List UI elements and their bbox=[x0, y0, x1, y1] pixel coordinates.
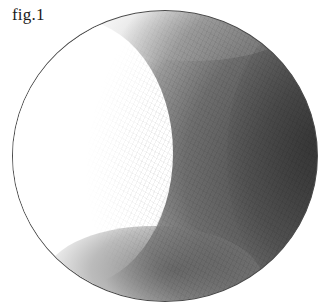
shaded-sphere-drawing bbox=[12, 10, 318, 302]
pencil-hatching bbox=[13, 11, 317, 301]
